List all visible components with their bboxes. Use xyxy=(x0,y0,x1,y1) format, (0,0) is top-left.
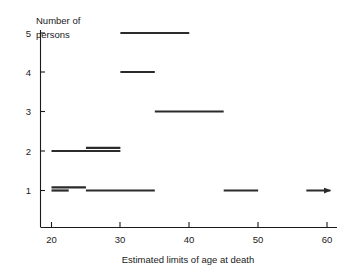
x-tick-label-20: 20 xyxy=(46,234,57,245)
y-tick-label-3: 3 xyxy=(26,106,31,117)
x-tick-label-40: 40 xyxy=(184,234,195,245)
x-tick-label-30: 30 xyxy=(115,234,126,245)
age-at-death-chart: 5 4 3 2 1 Number of persons 20 30 40 50 … xyxy=(0,0,349,270)
y-tick-label-2: 2 xyxy=(26,146,31,157)
y-tick-label-5: 5 xyxy=(26,28,31,39)
x-tick-label-50: 50 xyxy=(253,234,264,245)
y-tick-label-1: 1 xyxy=(26,185,31,196)
data-segment-layer xyxy=(52,33,331,191)
x-axis-title: Estimated limits of age at death xyxy=(122,254,255,265)
y-axis-title-line1: Number of xyxy=(36,15,81,26)
y-axis-title-line2: persons xyxy=(36,29,70,40)
x-tick-label-60: 60 xyxy=(322,234,333,245)
y-tick-label-4: 4 xyxy=(26,67,31,78)
